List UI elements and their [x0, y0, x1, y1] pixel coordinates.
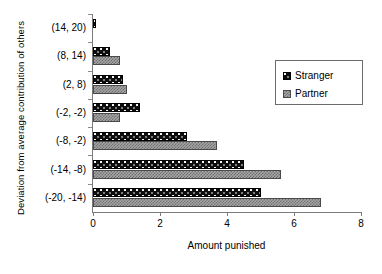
x-axis-tick: [227, 212, 228, 216]
legend-label-stranger: Stranger: [295, 70, 333, 81]
x-axis-tick: [361, 212, 362, 216]
bar-stranger: [93, 160, 244, 169]
bar-group: (-20, -14): [0, 184, 382, 212]
bar-partner: [93, 141, 217, 150]
bar-partner: [93, 113, 120, 122]
x-axis-tick-label: 4: [212, 218, 242, 229]
bar-stranger: [93, 188, 261, 197]
x-axis-tick: [93, 212, 94, 216]
bar-stranger: [93, 75, 123, 84]
legend-item-partner: Partner: [283, 86, 328, 98]
x-axis-tick: [294, 212, 295, 216]
bar-partner: [93, 198, 321, 207]
y-axis-tick-label: (-20, -14): [18, 192, 86, 203]
x-axis-tick-label: 2: [145, 218, 175, 229]
legend-swatch-stranger-icon: [283, 72, 291, 80]
bar-partner: [93, 85, 127, 94]
x-axis-tick-label: 6: [279, 218, 309, 229]
x-axis-tick-label: 0: [78, 218, 108, 229]
y-axis-tick-label: (-14, -8): [18, 164, 86, 175]
y-axis-tick: [88, 14, 92, 15]
y-axis-tick-label: (8, 14): [18, 50, 86, 61]
bar-group: (-8, -2): [0, 127, 382, 155]
bar-partner: [93, 170, 281, 179]
bar-group: (14, 20): [0, 14, 382, 42]
y-axis-tick: [88, 99, 92, 100]
x-axis-title: Amount punished: [92, 240, 361, 251]
y-axis-tick: [88, 127, 92, 128]
bar-partner: [93, 56, 120, 65]
legend-label-partner: Partner: [295, 88, 328, 99]
bar-stranger: [93, 103, 140, 112]
legend: Stranger Partner: [275, 60, 363, 105]
y-axis-tick-label: (-2, -2): [18, 107, 86, 118]
y-axis-tick: [88, 42, 92, 43]
y-axis-tick: [88, 155, 92, 156]
legend-item-stranger: Stranger: [283, 68, 333, 80]
bar-group: (-14, -8): [0, 155, 382, 183]
bar-stranger: [93, 19, 96, 28]
legend-swatch-partner-icon: [283, 90, 291, 98]
bar-stranger: [93, 47, 110, 56]
y-axis-tick: [88, 184, 92, 185]
y-axis-tick: [88, 71, 92, 72]
y-axis-tick-label: (-8, -2): [18, 135, 86, 146]
x-axis-tick: [160, 212, 161, 216]
y-axis-tick-label: (14, 20): [18, 22, 86, 33]
bar-stranger: [93, 132, 187, 141]
bar-chart: Deviation from average contribution of o…: [0, 0, 382, 274]
y-axis-tick-label: (2, 8): [18, 79, 86, 90]
x-axis-tick-label: 8: [346, 218, 376, 229]
